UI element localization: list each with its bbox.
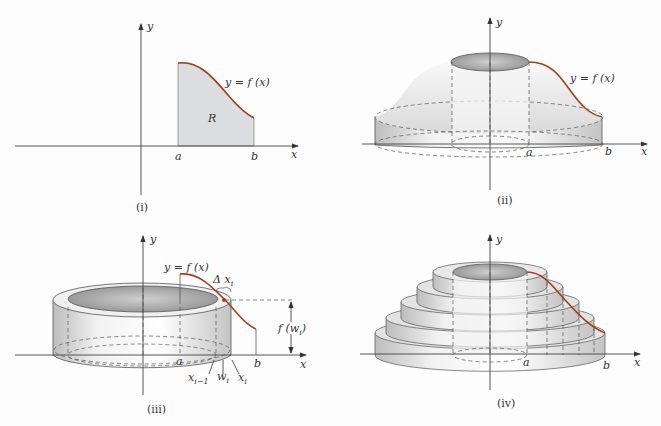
b-label: b	[254, 357, 261, 370]
y-axis-label: y	[495, 16, 503, 29]
b-label: b	[251, 150, 258, 163]
y-axis-label: y	[495, 233, 503, 246]
b-label: b	[603, 359, 610, 372]
caption-i: (i)	[136, 201, 148, 214]
curve-label: y = f (x)	[224, 76, 270, 89]
x-axis-label: x	[641, 145, 648, 158]
a-label: a	[176, 355, 183, 368]
w-label: wi	[217, 370, 229, 385]
x-i-label: xi	[238, 371, 247, 386]
y-axis-label: y	[146, 20, 154, 33]
b-label: b	[605, 145, 612, 158]
inner-cylinder	[452, 62, 529, 144]
panel-iii: y = f (x) Δ xi f (wi) a b x y xi−1 wi xi…	[15, 233, 307, 416]
curve-label: y = f (x)	[163, 261, 209, 274]
figure-canvas: y x y = f (x) R a b (i) y x y = f (x) a …	[0, 0, 661, 426]
y-axis-label: y	[149, 233, 157, 246]
caption-iii: (iii)	[147, 403, 166, 416]
x-axis-label: x	[300, 358, 307, 371]
panel-i: y x y = f (x) R a b (i)	[15, 20, 298, 214]
x-prev-label: xi−1	[188, 371, 209, 386]
a-label: a	[526, 146, 533, 159]
x-axis-label: x	[634, 356, 641, 369]
delta-x-label: Δ xi	[212, 273, 234, 288]
curve-label: y = f (x)	[569, 72, 615, 85]
region-label: R	[207, 112, 216, 125]
x-axis-label: x	[291, 148, 298, 161]
caption-iv: (iv)	[497, 397, 515, 410]
a-label: a	[523, 356, 530, 369]
a-label: a	[175, 150, 182, 163]
panel-iv: y x a b (iv)	[360, 233, 641, 410]
height-label: f (wi)	[277, 322, 306, 337]
panel-ii: y x y = f (x) a b (ii)	[362, 16, 648, 207]
caption-ii: (ii)	[497, 194, 513, 207]
